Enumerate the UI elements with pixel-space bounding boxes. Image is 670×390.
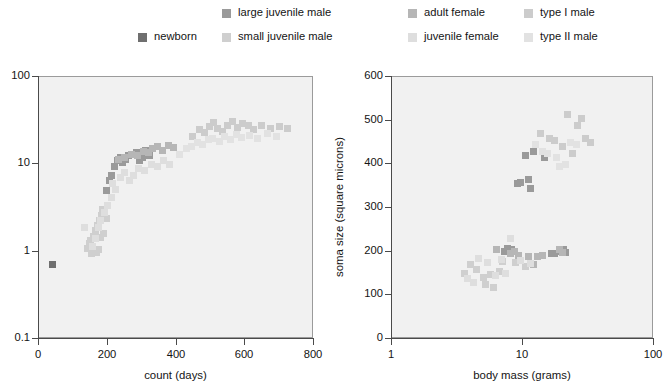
x-axis-tick-label: 10 [516,349,528,360]
x-axis-tick [522,339,523,345]
y-axis-title: soma size (square microns) [333,137,345,277]
y-axis-tick-label: 0 [347,332,383,343]
scatter-point [537,130,544,137]
x-axis-tick-label: 1 [388,349,394,360]
scatter-point [530,148,537,155]
y-axis-tick-label: 200 [347,245,383,256]
y-axis-tick-label: 400 [347,157,383,168]
scatter-point [467,261,474,268]
scatter-point [553,154,560,161]
figure-soma-size-vs-body-mass: 0100200300400500600110100body mass (gram… [0,0,670,390]
y-axis-tick-label: 300 [347,201,383,212]
scatter-point [573,141,580,148]
x-axis-tick [653,339,654,345]
scatter-point [525,253,532,260]
scatter-point [587,139,594,146]
y-axis-tick [385,294,391,295]
x-axis-title: body mass (grams) [473,369,570,381]
scatter-point [532,141,539,148]
scatter-point [493,246,500,253]
scatter-point [490,284,497,291]
plot-area [391,76,653,338]
scatter-point [559,143,566,150]
scatter-point [498,256,505,263]
y-axis-tick-label: 100 [347,288,383,299]
y-axis-tick [385,251,391,252]
scatter-point [544,150,551,157]
scatter-point [517,257,524,264]
scatter-point [578,115,585,122]
y-axis-tick [385,120,391,121]
scatter-point [564,111,571,118]
scatter-point [551,137,558,144]
x-axis-tick [391,339,392,345]
scatter-point [559,249,566,256]
y-axis-tick [385,163,391,164]
scatter-point [502,270,509,277]
scatter-point [556,163,563,170]
scatter-point [484,259,491,266]
scatter-point [522,152,529,159]
y-axis-tick [385,207,391,208]
scatter-point [539,252,546,259]
scatter-point [569,150,576,157]
scatter-point [525,176,532,183]
y-axis-tick [385,76,391,77]
scatter-point [482,281,489,288]
y-axis-tick-label: 500 [347,114,383,125]
y-axis-tick-label: 600 [347,70,383,81]
x-axis-tick-label: 100 [644,349,663,360]
scatter-point [470,279,477,286]
scatter-point [517,179,524,186]
y-axis-line [391,76,392,339]
scatter-point [475,255,482,262]
scatter-point [574,122,581,129]
scatter-point [527,260,534,267]
scatter-point [492,272,499,279]
scatter-point [507,235,514,242]
scatter-point [527,185,534,192]
